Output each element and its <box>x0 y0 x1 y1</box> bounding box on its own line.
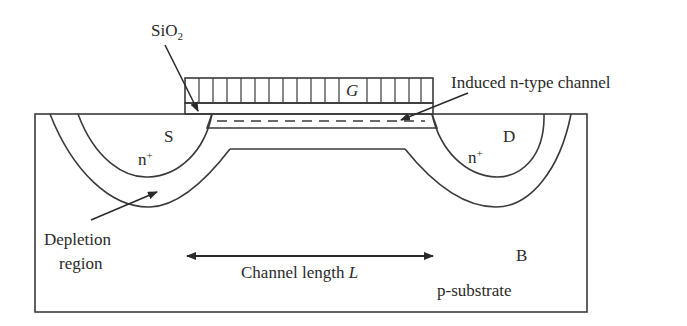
source-label: S <box>164 128 173 145</box>
oxide-label: SiO2 <box>151 22 183 42</box>
oxide-layer <box>185 103 433 114</box>
source-doping-label: n+ <box>138 150 153 168</box>
depletion-label-line2: region <box>44 252 111 276</box>
channel-length-label: Channel length L <box>241 264 358 281</box>
body-label: B <box>516 247 527 264</box>
gate-hatch <box>199 78 421 103</box>
induced-channel-label: Induced n-type channel <box>451 74 611 91</box>
depletion-pointer-arrow <box>91 192 157 220</box>
depletion-label: Depletion region <box>44 228 111 276</box>
drain-label: D <box>503 128 515 145</box>
drain-n-plus <box>432 114 544 177</box>
depletion-label-line1: Depletion <box>44 228 111 252</box>
gate-electrode <box>185 78 433 103</box>
channel-pointer-arrow <box>401 93 468 120</box>
substrate-label: p-substrate <box>437 282 512 299</box>
gate-label: G <box>343 82 361 99</box>
drain-doping-label: n+ <box>468 148 483 166</box>
